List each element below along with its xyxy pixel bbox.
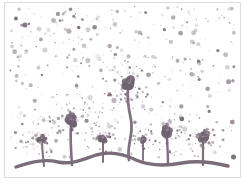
seed-dot — [169, 150, 171, 152]
seed-dot — [153, 64, 154, 65]
seed-dot — [142, 135, 143, 136]
seed-dot — [84, 119, 88, 123]
seed-dot — [200, 69, 204, 73]
seed-dot — [129, 99, 131, 101]
seed-dot — [77, 26, 80, 29]
seed-dot — [229, 126, 230, 127]
seed-dot — [91, 134, 93, 136]
seed-dot — [179, 104, 183, 108]
seed-dot — [124, 97, 126, 99]
seed-dot — [97, 15, 100, 18]
seed-dot — [152, 137, 153, 138]
seed-dot — [51, 18, 56, 23]
undulating-ground — [16, 153, 228, 167]
seed-dot — [164, 137, 167, 140]
seed-dot — [66, 66, 68, 68]
seed-dot — [102, 78, 104, 80]
seed-dot — [141, 69, 144, 72]
seed-dot — [19, 111, 24, 116]
seed-dot — [223, 17, 225, 19]
seed-dot — [187, 10, 190, 13]
seed-dot — [175, 151, 177, 153]
seed-dot — [144, 109, 145, 110]
seed-dot — [55, 55, 57, 57]
seed-dot — [146, 72, 151, 77]
seed-dot — [88, 147, 89, 148]
seed-dot — [219, 74, 220, 75]
seed-dot — [114, 90, 116, 92]
seed-dot — [171, 153, 172, 154]
seed-dot — [42, 118, 46, 122]
seed-dot — [195, 24, 199, 28]
seed-dot — [89, 110, 90, 111]
seed-dot — [141, 33, 143, 35]
seed-dot — [168, 77, 172, 81]
seed-dot — [85, 132, 87, 134]
seed-dot — [11, 42, 13, 44]
seed-dot — [95, 111, 97, 113]
seed-dot — [134, 138, 137, 141]
seed-dot — [205, 39, 206, 40]
seed-dot — [178, 31, 183, 36]
seed-dot — [176, 129, 178, 131]
seed-dot — [232, 28, 235, 31]
seed-dot — [157, 156, 160, 159]
seed-dot — [150, 123, 152, 125]
seed-dot — [67, 139, 68, 140]
seed-dot — [94, 122, 96, 124]
seed-dot — [11, 116, 12, 117]
seed-dot — [38, 153, 40, 155]
seed-dot — [14, 147, 16, 149]
seed-dot — [166, 6, 170, 10]
seed-dot — [58, 12, 59, 13]
seed-dot — [203, 140, 207, 144]
seed-dot — [120, 26, 121, 27]
seed-dot — [56, 132, 59, 135]
seed-dot — [151, 96, 152, 97]
seed-dot — [191, 30, 196, 35]
seed-dot — [37, 27, 42, 32]
seed-dot — [227, 88, 231, 92]
seed-dot — [142, 100, 143, 101]
seed-dot — [76, 65, 77, 66]
seed-dot — [69, 156, 71, 158]
seed-dot — [97, 20, 99, 22]
seed-dot — [191, 110, 192, 111]
seed-dot — [10, 45, 14, 49]
seed-dot — [213, 55, 214, 56]
seed-dot — [193, 10, 194, 11]
seed-dot — [113, 65, 117, 69]
seed-dot — [63, 42, 64, 43]
seed-dot — [134, 18, 135, 19]
seed-dot — [179, 136, 181, 138]
seed-dot — [92, 20, 93, 21]
seed-dot — [171, 70, 173, 72]
seed-dot — [33, 99, 37, 103]
seed-dot — [130, 16, 132, 18]
seed-dot — [213, 134, 215, 136]
seed-dot — [188, 143, 191, 146]
seed-dot — [149, 107, 153, 111]
seed-dot — [86, 57, 90, 61]
seed-dot — [163, 28, 166, 31]
seed-dot — [207, 141, 210, 144]
seed-dot — [208, 110, 211, 113]
seed-dot — [92, 85, 93, 86]
seed-dot — [126, 58, 127, 59]
seed-dot — [85, 112, 86, 113]
seed-dot — [144, 11, 147, 14]
seed-dot — [177, 135, 179, 137]
seed-dot — [119, 32, 121, 34]
seed-dot — [100, 71, 102, 73]
seed-dot — [120, 88, 123, 91]
seed-dot — [184, 19, 185, 20]
seed-dot — [172, 58, 173, 59]
seed-dot — [196, 114, 197, 115]
seed-dot — [79, 94, 80, 95]
seed-dot — [134, 6, 136, 8]
seed-dot — [159, 149, 160, 150]
seed-dot — [75, 43, 76, 44]
seed-dot — [133, 121, 137, 125]
seed-dot — [14, 17, 18, 21]
seed-dot — [154, 66, 156, 68]
